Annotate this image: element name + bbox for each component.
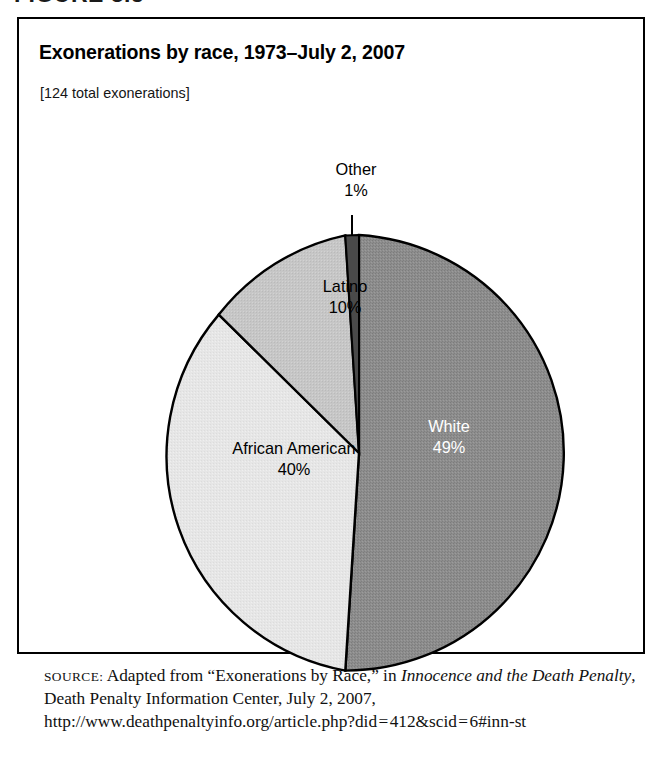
pie-label-white-value: 49% [428,438,470,459]
pie-chart: Other 1% Latino 10% African American 40%… [19,19,647,652]
source-publication: Innocence and the Death Penalty [401,666,631,685]
pie-label-other-value: 1% [336,181,377,202]
source-label: SOURCE: [44,669,103,684]
source-text-before: Adapted from “Exonerations by Race,” in [103,666,401,685]
pie-label-latino-name: Latino [323,277,367,298]
pie-label-white: White 49% [428,417,470,459]
pie-label-latino: Latino 10% [323,277,367,319]
pie-label-african-american: African American 40% [232,439,355,481]
pie-label-african-american-value: 40% [232,460,355,481]
pie-label-latino-value: 10% [323,298,367,319]
pie-label-african-american-name: African American [232,439,355,460]
pie-label-other: Other 1% [336,160,377,202]
source-note: SOURCE: Adapted from “Exonerations by Ra… [44,665,644,733]
pie-label-other-name: Other [336,160,377,181]
pie-chart-svg [0,0,663,700]
figure-box: Exonerations by race, 1973–July 2, 2007 … [17,17,645,654]
pie-label-white-name: White [428,417,470,438]
